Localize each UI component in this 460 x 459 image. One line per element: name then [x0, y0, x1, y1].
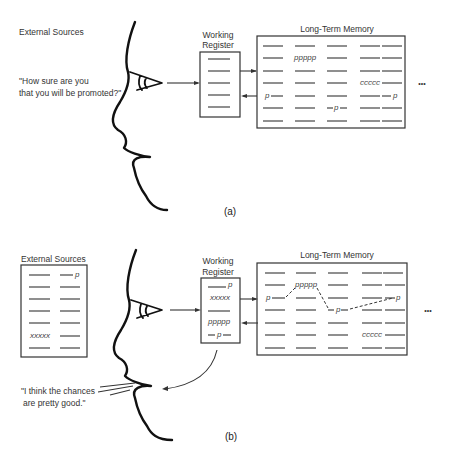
arrowhead-icon	[195, 308, 201, 312]
wr-b-ppppp: ppppp	[207, 317, 231, 326]
arrowhead-icon	[162, 386, 168, 391]
arrowhead-icon	[241, 321, 247, 325]
ltm-a-ppppp: ppppp	[293, 53, 317, 62]
wr-b-xxxxx: xxxxx	[209, 293, 231, 302]
arrowhead-icon	[194, 81, 200, 85]
ltm-b-p3: p	[395, 293, 401, 302]
ltm-b-slots	[265, 273, 405, 348]
ltm-a-slots	[263, 46, 402, 121]
answer-line-1: "I think the chances	[21, 386, 95, 396]
face-profile-a-icon	[113, 22, 167, 210]
external-p: p	[74, 270, 80, 279]
external-sources-label-a: External Sources	[19, 27, 84, 37]
answer-line-2: are pretty good."	[23, 398, 86, 408]
arrow-register-to-mouth	[165, 350, 217, 389]
eye-a-icon	[130, 72, 162, 90]
face-profile-b-icon	[114, 250, 172, 440]
panel-a: External Sources "How sure are you that …	[19, 22, 426, 217]
ltm-a-ccccc: ccccc	[360, 78, 380, 87]
ltm-a-p1: p	[264, 91, 270, 100]
ltm-b-p1: p	[265, 293, 271, 302]
ltm-b-ccccc: ccccc	[362, 330, 382, 339]
question-line-1: "How sure are you	[19, 76, 89, 86]
wr-b-p-bottom: p	[216, 330, 222, 339]
working-register-label-b1: Working	[202, 256, 233, 266]
ltm-b-ppppp: ppppp	[294, 280, 318, 289]
working-register-label-a2: Register	[202, 40, 234, 50]
ltm-label-a: Long-Term Memory	[300, 24, 374, 34]
arrowhead-icon	[241, 94, 247, 98]
memory-model-diagram: External Sources "How sure are you that …	[0, 0, 460, 459]
long-term-memory-a	[257, 36, 405, 128]
working-register-label-a1: Working	[202, 30, 233, 40]
wr-a-slots	[208, 59, 230, 107]
panel-b: External Sources p xxxxx "I think the ch…	[21, 250, 432, 442]
external-xxxxx: xxxxx	[29, 331, 51, 340]
question-line-2: that you will be promoted?"	[19, 88, 121, 98]
arrowhead-icon	[251, 69, 257, 73]
ltm-label-b: Long-Term Memory	[300, 250, 374, 260]
ltm-a-p3: p	[392, 91, 398, 100]
caption-b: (b)	[225, 431, 237, 442]
ltm-b-p2: p	[335, 305, 341, 314]
ltm-a-p2: p	[333, 103, 339, 112]
external-sources-label-b: External Sources	[21, 254, 86, 264]
working-register-label-b2: Register	[202, 267, 234, 277]
ellipsis-icon: •••	[418, 80, 426, 87]
eye-b-icon	[131, 300, 162, 318]
speech-lines-icon	[98, 383, 135, 395]
long-term-memory-b	[257, 263, 407, 355]
caption-a: (a)	[224, 206, 236, 217]
ellipsis-icon: •••	[424, 307, 432, 314]
wr-b-p-top: p	[227, 280, 233, 289]
